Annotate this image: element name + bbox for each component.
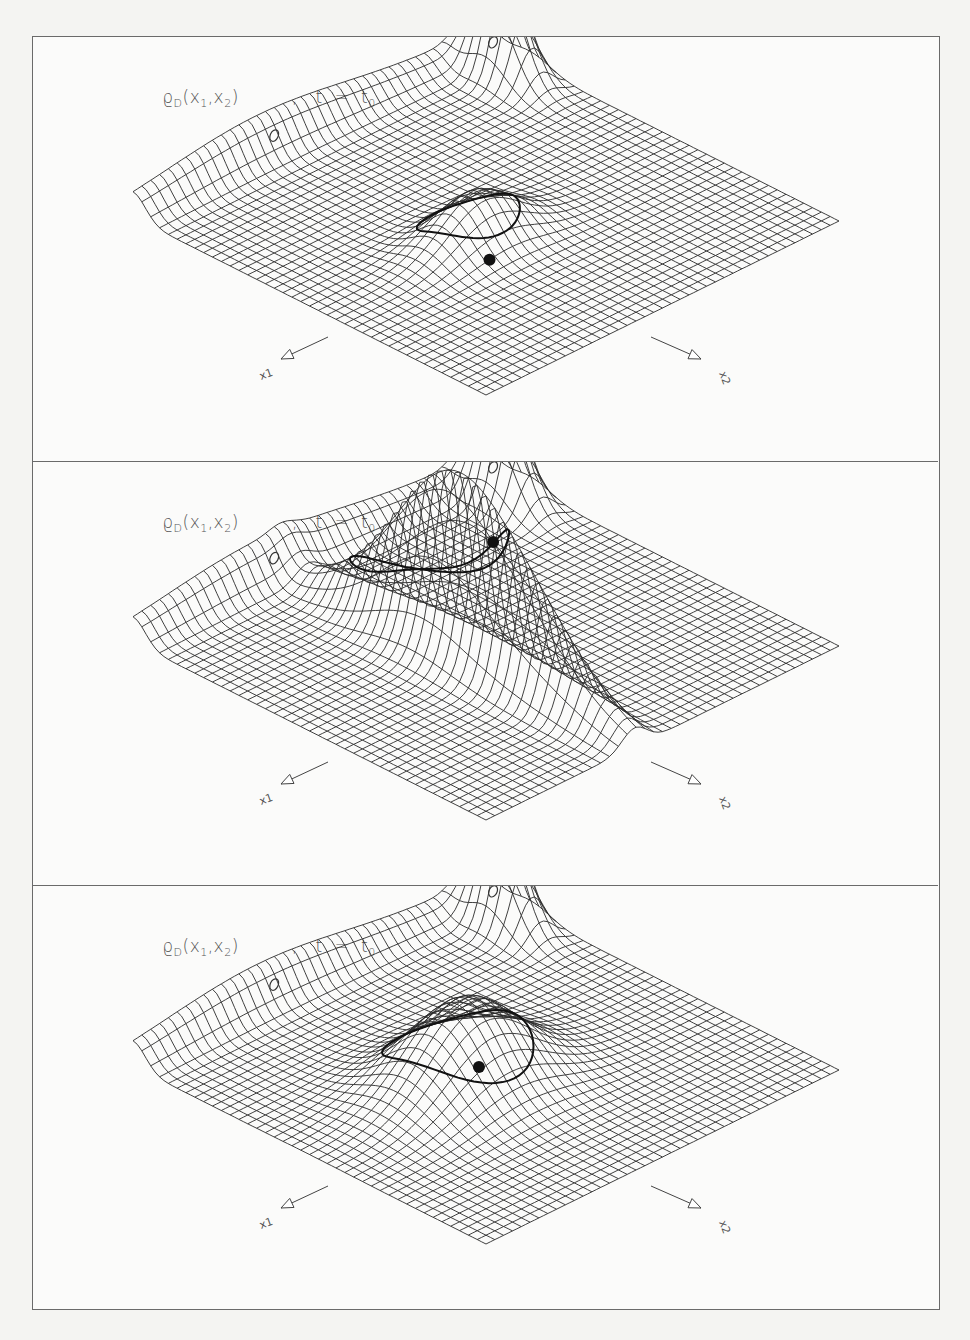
x1-axis-arrow-icon [281, 762, 328, 784]
x2-axis-arrow-icon [651, 1186, 701, 1208]
surface-plot-3: x1x2 [33, 886, 938, 1310]
wireframe-mesh [133, 37, 839, 395]
black-dot-marker [473, 1061, 485, 1073]
plot-panel-1: ϱD(x1,x2) , t = t0 x1x2 [33, 37, 938, 461]
x2-axis-label: x2 [716, 370, 733, 387]
x2-axis-arrow-icon [651, 337, 701, 359]
black-dot-marker [484, 254, 496, 266]
scanned-page: ϱD(x1,x2) , t = t0 x1x2 ϱD(x1,x2) , t = … [0, 0, 970, 1340]
x1-axis-label: x1 [258, 791, 275, 808]
surface-plot-1: x1x2 [33, 37, 938, 461]
x1-axis-label: x1 [258, 366, 275, 383]
surface-plot-2: x1x2 [33, 462, 938, 886]
wireframe-mesh [133, 462, 839, 820]
x2-axis-label: x2 [716, 795, 733, 812]
figure-frame: ϱD(x1,x2) , t = t0 x1x2 ϱD(x1,x2) , t = … [32, 36, 940, 1310]
zero-marker [487, 886, 499, 898]
x2-axis-label: x2 [716, 1219, 733, 1236]
x1-axis-arrow-icon [281, 1186, 328, 1208]
x2-axis-arrow-icon [651, 762, 701, 784]
zero-marker [487, 462, 499, 474]
plot-panel-2: ϱD(x1,x2) , t = t0 x1x2 [33, 461, 938, 885]
black-dot-marker [487, 536, 499, 548]
x1-axis-label: x1 [258, 1215, 275, 1232]
x1-axis-arrow-icon [281, 337, 328, 359]
zero-marker [487, 37, 499, 49]
wireframe-mesh [133, 886, 839, 1244]
plot-panel-3: ϱD(x1,x2) , t = t0 x1x2 [33, 885, 938, 1309]
